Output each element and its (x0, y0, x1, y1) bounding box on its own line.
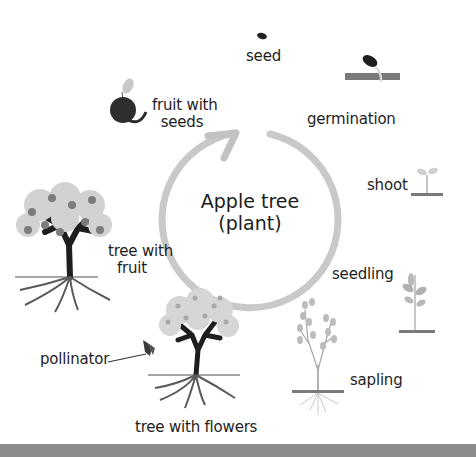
label-tree-with-fruit-line1: tree with (108, 243, 156, 260)
center-title-line1: Apple tree (190, 190, 310, 212)
label-shoot: shoot (367, 177, 408, 194)
germination-icon (345, 53, 400, 82)
pollinator-icon (108, 340, 155, 362)
label-pollinator: pollinator (40, 351, 109, 368)
seed-icon (256, 32, 267, 40)
label-fruit-with-seeds-line2: seeds (152, 114, 212, 131)
sapling-icon (292, 298, 344, 415)
bottom-bar (0, 444, 476, 457)
label-germination: germination (307, 111, 396, 128)
label-seed: seed (246, 48, 281, 65)
tree-with-fruit-icon (15, 182, 112, 312)
label-sapling: sapling (350, 372, 403, 389)
center-title: Apple tree (plant) (190, 190, 310, 234)
tree-with-flowers-icon (148, 288, 240, 408)
label-tree-with-fruit: tree with fruit (108, 243, 156, 277)
label-tree-with-fruit-line2: fruit (108, 260, 156, 277)
label-fruit-with-seeds: fruit with seeds (152, 97, 212, 131)
seedling-icon (399, 273, 435, 333)
apple-icon (110, 77, 146, 123)
label-seedling: seedling (332, 266, 394, 283)
center-title-line2: (plant) (190, 212, 310, 234)
label-tree-with-flowers: tree with flowers (135, 419, 257, 436)
label-fruit-with-seeds-line1: fruit with (152, 97, 212, 114)
shoot-icon (411, 166, 443, 196)
